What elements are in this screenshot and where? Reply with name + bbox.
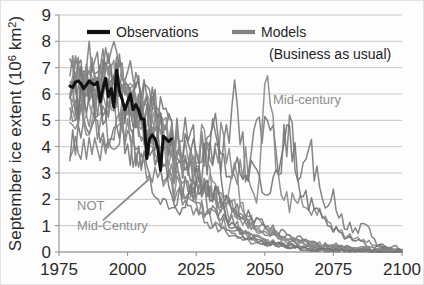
annotation-not-mid-century: Mid-Century — [77, 218, 148, 233]
y-tick-label-9: 9 — [42, 6, 51, 25]
y-tick-label-4: 4 — [42, 138, 51, 157]
y-tick-label-3: 3 — [42, 164, 51, 183]
annotation-mid-century: Mid-century — [273, 92, 341, 107]
chart-svg: 0123456789 197520002025205020752100 (Bus… — [1, 1, 424, 285]
y-tick-label-5: 5 — [42, 111, 51, 130]
y-tick-labels: 0123456789 — [42, 6, 51, 262]
y-tick-label-1: 1 — [42, 217, 51, 236]
y-tick-label-8: 8 — [42, 32, 51, 51]
y-tick-label-6: 6 — [42, 85, 51, 104]
annotation-business-as-usual: (Business as usual) — [269, 46, 391, 62]
x-tick-label-2025: 2025 — [177, 260, 215, 279]
x-tick-label-2100: 2100 — [383, 260, 421, 279]
x-tick-label-2075: 2075 — [314, 260, 352, 279]
x-tick-label-1975: 1975 — [40, 260, 78, 279]
legend-label-models: Models — [261, 24, 306, 40]
y-axis-title: September ice extent (106 km2) — [6, 16, 25, 251]
chart-figure: 0123456789 197520002025205020752100 (Bus… — [0, 0, 424, 285]
y-axis-title-text: September ice extent (106 km2) — [6, 16, 25, 251]
legend: ObservationsModels — [87, 24, 306, 40]
y-tick-label-2: 2 — [42, 190, 51, 209]
x-tick-labels: 197520002025205020752100 — [40, 260, 421, 279]
legend-label-observations: Observations — [116, 24, 198, 40]
annotation-not: NOT — [77, 198, 105, 213]
x-tick-label-2050: 2050 — [246, 260, 284, 279]
y-tick-label-7: 7 — [42, 59, 51, 78]
x-tick-label-2000: 2000 — [109, 260, 147, 279]
